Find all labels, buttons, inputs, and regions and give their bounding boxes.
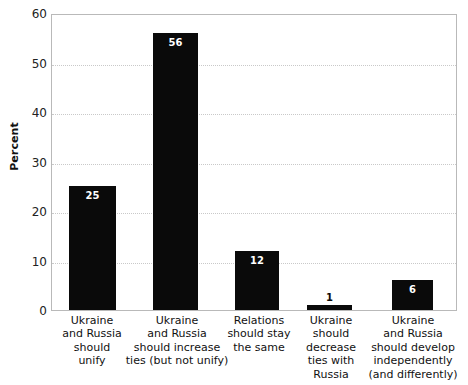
y-tick-label: 20 xyxy=(13,206,47,218)
bar[interactable] xyxy=(307,305,352,310)
x-axis-category-labels: Ukraine and Russia should unifyUkraine a… xyxy=(51,314,457,384)
y-tick-label: 60 xyxy=(13,8,47,20)
bar-value-label: 56 xyxy=(153,37,198,48)
x-category-label: Relations should stay the same xyxy=(223,314,295,354)
bar-value-label: 25 xyxy=(69,190,116,201)
gridline xyxy=(52,114,456,115)
y-tick-label: 0 xyxy=(13,305,47,317)
y-tick-label: 30 xyxy=(13,157,47,169)
y-tick-label: 40 xyxy=(13,107,47,119)
bar[interactable]: 25 xyxy=(69,186,116,310)
bar-value-label: 6 xyxy=(392,284,433,295)
bar[interactable]: 12 xyxy=(235,251,279,310)
y-tick-label: 50 xyxy=(13,58,47,70)
gridline xyxy=(52,164,456,165)
gridline xyxy=(52,65,456,66)
bar-value-label: 12 xyxy=(235,255,279,266)
x-category-label: Ukraine and Russia should develop indepe… xyxy=(358,314,468,381)
x-category-label: Ukraine should decrease ties with Russia xyxy=(296,314,366,381)
y-tick-label: 10 xyxy=(13,256,47,268)
bar[interactable]: 56 xyxy=(153,33,198,310)
bar-value-label: 1 xyxy=(307,292,352,303)
bar[interactable]: 6 xyxy=(392,280,433,310)
bar-chart: Percent 0102030405060 25561216 Ukraine a… xyxy=(0,0,468,385)
plot-area: 25561216 xyxy=(51,14,457,311)
x-category-label: Ukraine and Russia should increase ties … xyxy=(121,314,233,368)
